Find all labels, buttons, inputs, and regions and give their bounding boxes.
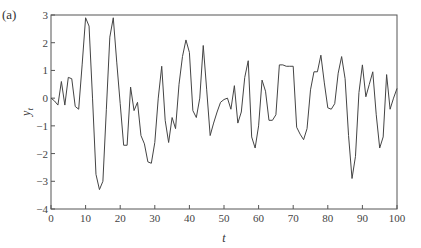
y-tick-label: 1 [43, 64, 49, 76]
x-tick-label: 100 [389, 212, 406, 224]
x-tick-label: 20 [115, 212, 127, 224]
y-tick-label: 0 [43, 92, 49, 104]
x-tick-label: 0 [48, 212, 54, 224]
x-tick-label: 30 [149, 212, 161, 224]
y-tick-label: −2 [36, 148, 48, 160]
x-tick-label: 40 [184, 212, 196, 224]
x-tick-label: 50 [219, 212, 231, 224]
line-chart: 0102030405060708090100 −4−3−2−10123 t yt [0, 0, 421, 248]
x-tick-label: 70 [288, 212, 300, 224]
y-tick-label: 2 [43, 37, 49, 49]
y-axis-title: yt [19, 108, 35, 117]
y-axis-ticks: −4−3−2−10123 [36, 9, 55, 215]
y-tick-label: −4 [36, 203, 48, 215]
x-tick-label: 80 [322, 212, 334, 224]
x-axis-ticks: 0102030405060708090100 [48, 205, 406, 224]
y-tick-label: 3 [43, 9, 49, 21]
y-tick-label: −1 [36, 120, 48, 132]
x-tick-label: 10 [80, 212, 92, 224]
y-tick-label: −3 [36, 175, 48, 187]
x-axis-title: t [222, 231, 226, 245]
svg-text:yt: yt [19, 108, 35, 117]
x-tick-label: 60 [253, 212, 265, 224]
series-line-y-t [51, 18, 397, 190]
x-tick-label: 90 [357, 212, 369, 224]
